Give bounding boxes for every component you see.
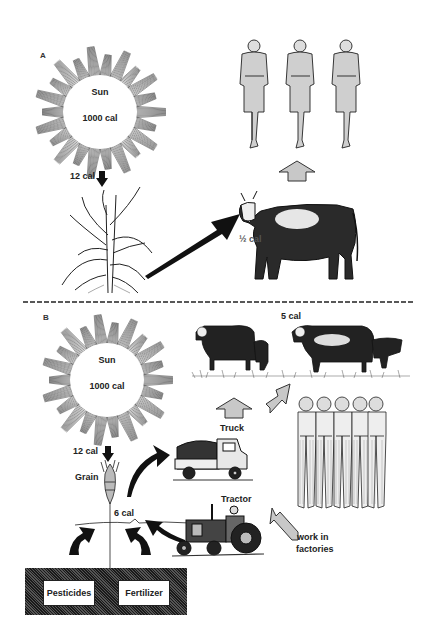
- sun-to-plant-energy-label: 12 cal: [70, 171, 95, 181]
- cattle-herd-icon: [192, 318, 410, 380]
- fertilizer-box: Fertilizer: [118, 580, 170, 606]
- truck-label: Truck: [220, 423, 244, 433]
- sun-b-energy: 1000 cal: [40, 381, 174, 391]
- sun-b: Sun 1000 cal: [40, 313, 174, 447]
- sun-a: Sun 1000 cal: [33, 45, 167, 179]
- tractor-to-workers-arrow-icon: [270, 506, 300, 542]
- workers-to-cattle-arrow-icon: [266, 384, 292, 414]
- pesticides-box: Pesticides: [43, 580, 95, 606]
- sun-a-energy: 1000 cal: [33, 113, 167, 123]
- cow-energy-label: ½ cal: [239, 234, 262, 244]
- workers-label-line1: work in: [297, 532, 329, 542]
- sun-rays-icon: [33, 45, 167, 179]
- cattle-energy-label: 5 cal: [281, 311, 301, 321]
- up-arrow-icon: [278, 160, 316, 182]
- sun-to-grain-energy-label: 12 cal: [73, 446, 98, 456]
- plant-to-cow-arrow-icon: [145, 210, 240, 280]
- workers-label-line2: factories: [296, 544, 334, 554]
- section-divider: [23, 300, 413, 304]
- truck-icon: [173, 435, 253, 483]
- cow-icon: [237, 183, 362, 283]
- people-group-icon: [234, 40, 374, 155]
- sun-rays-icon: [40, 313, 174, 447]
- sun-a-title: Sun: [33, 87, 167, 97]
- tractor-icon: [172, 500, 264, 560]
- sun-b-title: Sun: [40, 355, 174, 365]
- up-arrow-icon: [215, 397, 253, 419]
- grain-to-truck-arrow-icon: [125, 443, 170, 498]
- down-arrow-icon: [102, 446, 114, 462]
- factory-workers-icon: [296, 396, 388, 510]
- soil-up-arrow-left-icon: [65, 525, 95, 555]
